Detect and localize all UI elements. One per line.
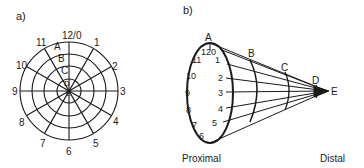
cone-clock-9: 9 xyxy=(185,88,190,98)
panel-a-label: a) xyxy=(16,10,26,22)
cone-lines xyxy=(210,43,327,143)
diagram-canvas: a) 12/0 1 2 3 4 5 6 7 8 9 xyxy=(0,0,364,168)
clock-label-12: 12/0 xyxy=(62,30,82,41)
clock-label-7: 7 xyxy=(40,138,46,149)
clock-label-9: 9 xyxy=(12,86,18,97)
ring-label-a: A xyxy=(54,41,61,52)
clock-label-3: 3 xyxy=(120,86,126,97)
cone-clock-11: 11 xyxy=(192,55,201,65)
clock-label-4: 4 xyxy=(113,116,119,127)
ring-label-c: C xyxy=(61,65,68,76)
cone-clock-3: 3 xyxy=(218,88,223,98)
cone-clock-7: 7 xyxy=(192,120,197,130)
clock-label-8: 8 xyxy=(19,117,25,128)
clock-label-2: 2 xyxy=(112,61,118,72)
panel-a-polar-diagram: a) 12/0 1 2 3 4 5 6 7 8 9 xyxy=(12,10,126,157)
proximal-label: Proximal xyxy=(182,153,221,164)
distal-label: Distal xyxy=(320,153,345,164)
cone-clock-10: 10 xyxy=(186,71,196,81)
section-label-d: D xyxy=(312,75,319,86)
section-label-c: C xyxy=(281,62,288,73)
ring-label-d: D xyxy=(64,79,70,88)
section-label-e: E xyxy=(331,86,338,97)
cone-clock-6: 6 xyxy=(199,131,204,141)
ring-label-b: B xyxy=(58,53,65,64)
clock-label-11: 11 xyxy=(36,37,47,48)
cone-clock-8: 8 xyxy=(186,105,191,115)
ring-label-e: E xyxy=(66,90,71,97)
section-label-a: A xyxy=(205,32,212,43)
clock-label-1: 1 xyxy=(94,37,100,48)
clock-label-6: 6 xyxy=(66,146,72,157)
apex-point xyxy=(314,86,329,97)
section-label-b: B xyxy=(248,48,255,59)
cone-clock-12: 12 xyxy=(201,47,211,57)
clock-label-10: 10 xyxy=(16,60,28,71)
clock-label-5: 5 xyxy=(93,138,99,149)
cone-clock-2: 2 xyxy=(218,73,223,83)
cone-clock-4: 4 xyxy=(218,104,223,114)
panel-b-label: b) xyxy=(183,4,193,16)
cone-clock-5: 5 xyxy=(212,118,217,128)
panel-b-cone-diagram: b) A B C D E 12 xyxy=(182,4,345,164)
cone-clock-1: 1 xyxy=(215,55,220,65)
